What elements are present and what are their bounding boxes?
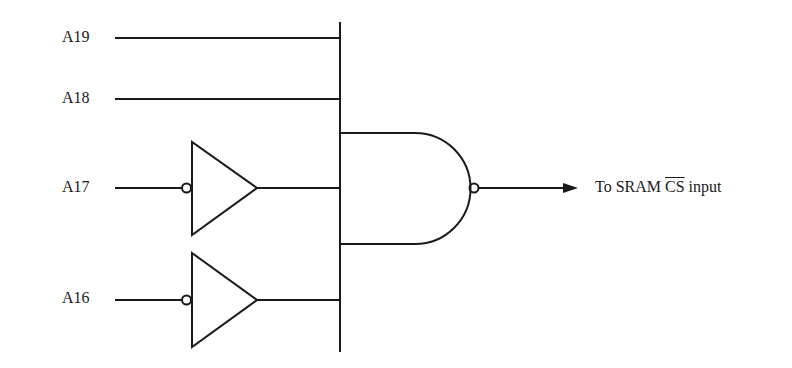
nand-gate-icon bbox=[340, 133, 471, 244]
input-label-a19: A19 bbox=[62, 29, 90, 45]
input-label-a16: A16 bbox=[62, 290, 90, 306]
input-label-a18: A18 bbox=[62, 90, 90, 106]
a17-inversion-bubble-icon bbox=[182, 184, 191, 193]
output-label-prefix: To SRAM bbox=[595, 178, 665, 195]
output-arrow-icon bbox=[563, 183, 578, 193]
output-label-signal-cs: CS bbox=[665, 178, 685, 195]
output-label: To SRAM CS input bbox=[595, 179, 721, 195]
output-label-suffix: input bbox=[685, 178, 722, 195]
input-label-a17: A17 bbox=[62, 179, 90, 195]
a17-buffer-triangle-icon bbox=[192, 142, 257, 235]
a16-buffer-triangle-icon bbox=[192, 253, 257, 347]
a16-inversion-bubble-icon bbox=[182, 296, 191, 305]
